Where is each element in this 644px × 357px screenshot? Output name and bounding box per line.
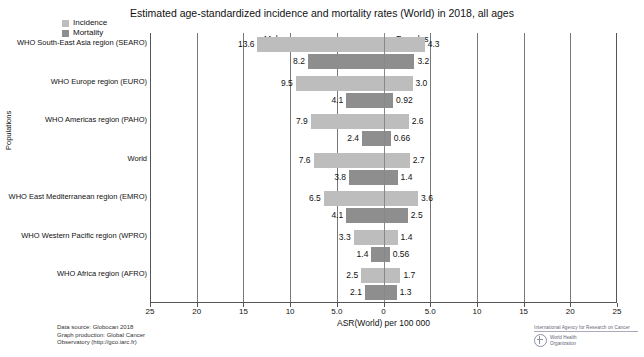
bar-male-incidence [361, 268, 384, 283]
bar-value-female-incidence: 2.6 [412, 114, 453, 129]
x-tick-label: 25 [146, 307, 155, 316]
x-tick-label: 5.0 [425, 307, 436, 316]
iarc-divider [534, 331, 638, 332]
who-line-1: World Health [550, 335, 576, 340]
bar-male-incidence [354, 230, 385, 245]
gridline-20 [570, 33, 571, 302]
bar-value-male-incidence: 7.9 [267, 114, 308, 129]
bar-value-male-incidence: 6.5 [280, 191, 321, 206]
bar-male-mortality [346, 208, 384, 223]
bar-female-incidence [385, 76, 413, 91]
chart-figure: Estimated age-standardized incidence and… [0, 0, 644, 357]
bar-male-mortality [346, 93, 384, 108]
bar-female-mortality [385, 93, 394, 108]
bar-female-mortality [385, 285, 397, 300]
iarc-who-logo: International Agency for Research on Can… [534, 325, 638, 347]
y-axis-label: WHO Africa region (AFRO) [2, 269, 150, 278]
x-tick-label: 20 [192, 307, 201, 316]
who-line-2: Organization [550, 341, 576, 346]
bar-value-male-incidence: 7.6 [270, 153, 311, 168]
bar-male-incidence [314, 153, 385, 168]
x-tick-label: 10 [472, 307, 481, 316]
bar-value-male-incidence: 2.5 [317, 268, 358, 283]
who-logo-text: World Health Organization [550, 335, 576, 346]
bar-male-incidence [296, 76, 385, 91]
bar-value-female-mortality: 0.66 [394, 131, 435, 146]
x-tick-label: 0 [381, 307, 385, 316]
bar-female-incidence [385, 37, 425, 52]
bar-female-mortality [385, 131, 391, 146]
bar-value-female-mortality: 3.2 [417, 54, 458, 69]
gridline-20 [197, 33, 198, 302]
bar-value-female-incidence: 3.6 [421, 191, 462, 206]
bar-value-female-mortality: 1.4 [401, 170, 442, 185]
bar-male-incidence [324, 191, 385, 206]
bar-value-male-incidence: 3.3 [310, 230, 351, 245]
bar-value-male-mortality: 3.8 [305, 170, 346, 185]
y-axis-label: WHO Europe region (EURO) [2, 77, 150, 86]
bar-value-female-incidence: 3.0 [416, 76, 457, 91]
bar-female-mortality [385, 208, 408, 223]
bar-value-male-mortality: 2.1 [321, 285, 362, 300]
source-line-2: Graph production: Global Cancer [57, 332, 145, 340]
bar-female-incidence [385, 191, 419, 206]
bar-female-incidence [385, 268, 401, 283]
bar-value-male-mortality: 4.1 [302, 93, 343, 108]
y-axis-labels: WHO South-East Asia region (SEARO)WHO Eu… [0, 33, 150, 303]
bar-value-male-incidence: 13.6 [213, 37, 254, 52]
y-axis-title: Populations [4, 111, 13, 150]
bar-value-female-mortality: 0.56 [393, 247, 434, 262]
bar-value-female-mortality: 0.92 [396, 93, 437, 108]
bar-value-female-mortality: 1.3 [400, 285, 441, 300]
x-tick-label: 5.0 [331, 307, 342, 316]
x-axis-ticks: 252015105.005.010152025 [150, 303, 617, 317]
y-axis-label: World [2, 154, 150, 163]
bar-value-female-incidence: 1.7 [403, 268, 444, 283]
who-emblem-icon [534, 334, 547, 347]
y-axis-label: WHO Americas region (PAHO) [2, 115, 150, 124]
gridline-15 [243, 33, 244, 302]
bar-male-incidence [257, 37, 384, 52]
x-tick-label: 25 [613, 307, 622, 316]
source-line-1: Data source: Globocan 2018 [57, 324, 145, 332]
bar-male-mortality [371, 247, 384, 262]
bar-male-mortality [362, 131, 384, 146]
bar-value-male-incidence: 9.5 [252, 76, 293, 91]
y-axis-label: WHO East Mediterranean region (EMRO) [2, 192, 150, 201]
bar-female-mortality [385, 247, 390, 262]
x-tick-label: 10 [286, 307, 295, 316]
bar-female-mortality [385, 170, 398, 185]
bar-value-male-mortality: 8.2 [264, 54, 305, 69]
gridline-15 [524, 33, 525, 302]
bar-value-male-mortality: 1.4 [327, 247, 368, 262]
source-line-3: Observatory (http://gco.iarc.fr) [57, 339, 145, 347]
bar-value-female-incidence: 4.3 [428, 37, 469, 52]
bar-male-mortality [365, 285, 385, 300]
legend-swatch-incidence [62, 20, 69, 27]
bar-male-mortality [308, 54, 385, 69]
bar-value-female-incidence: 2.7 [413, 153, 454, 168]
bar-female-incidence [385, 230, 398, 245]
source-note: Data source: Globocan 2018 Graph product… [57, 324, 145, 347]
bar-value-male-mortality: 4.1 [302, 208, 343, 223]
bar-male-incidence [311, 114, 385, 129]
y-axis-label: WHO Western Pacific region (WPRO) [2, 231, 150, 240]
iarc-agency-text: International Agency for Research on Can… [534, 325, 638, 330]
x-tick-label: 15 [239, 307, 248, 316]
y-axis-label: WHO South-East Asia region (SEARO) [2, 38, 150, 47]
bar-value-female-incidence: 1.4 [401, 230, 442, 245]
bar-female-incidence [385, 114, 409, 129]
x-tick-label: 20 [566, 307, 575, 316]
who-logo-row: World Health Organization [534, 334, 638, 347]
bar-value-male-mortality: 2.4 [318, 131, 359, 146]
gridline-10 [477, 33, 478, 302]
legend-item-incidence: Incidence [62, 18, 107, 28]
x-tick-label: 15 [519, 307, 528, 316]
bar-female-mortality [385, 54, 415, 69]
bar-value-female-mortality: 2.5 [411, 208, 452, 223]
bar-male-mortality [349, 170, 384, 185]
legend-label-incidence: Incidence [73, 18, 107, 28]
plot-area: 13.64.38.23.29.53.04.10.927.92.62.40.667… [150, 33, 617, 303]
bar-female-incidence [385, 153, 410, 168]
